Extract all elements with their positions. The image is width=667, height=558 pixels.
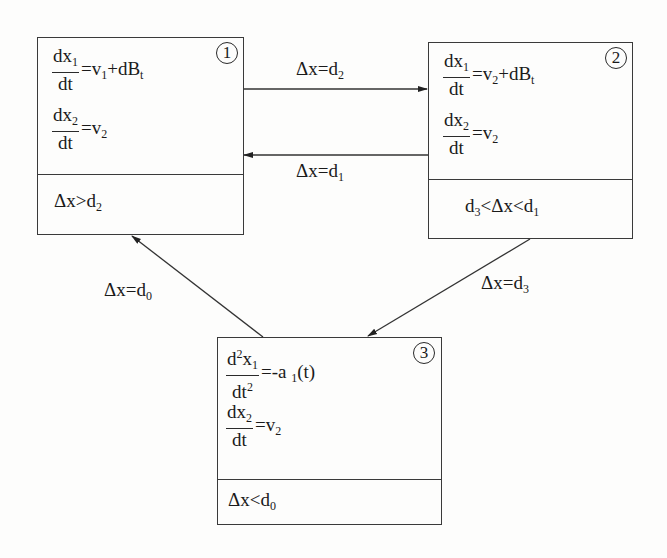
equation-dx1: dx1dt =v2+dBt — [443, 51, 534, 100]
equation-dx2: dx2dt =v2 — [443, 110, 498, 159]
equation-dx2: dx2dt =v2 — [52, 105, 107, 154]
equation-dx1: dx1dt =v1+dBt — [52, 46, 143, 95]
state-box-2: 2 dx1dt =v2+dBt dx2dt =v2 d3<Δx<d1 — [428, 42, 633, 239]
box-divider — [218, 479, 441, 480]
box-divider — [429, 179, 632, 180]
transition-label-2-to-3: Δx=d3 — [481, 272, 529, 297]
state-condition: Δx<d0 — [228, 489, 276, 514]
box-divider — [38, 174, 243, 175]
state-box-1: 1 dx1dt =v1+dBt dx2dt =v2 Δx>d2 — [37, 37, 244, 235]
state-number-badge: 2 — [605, 47, 627, 69]
state-number-badge: 3 — [413, 342, 435, 364]
transition-label-1-to-2: Δx=d2 — [296, 58, 344, 83]
transition-label-2-to-1: Δx=d1 — [296, 160, 344, 185]
equation-d2x1: d2x1dt2 =-a 1(t) — [226, 344, 315, 403]
state-condition: d3<Δx<d1 — [465, 195, 539, 220]
state-box-3: 3 d2x1dt2 =-a 1(t) dx2dt =v2 Δx<d0 — [217, 337, 442, 525]
transition-label-3-to-1: Δx=d0 — [104, 279, 152, 304]
equation-dx2: dx2dt =v2 — [226, 402, 281, 451]
state-number-badge: 1 — [216, 42, 238, 64]
state-condition: Δx>d2 — [54, 190, 102, 215]
